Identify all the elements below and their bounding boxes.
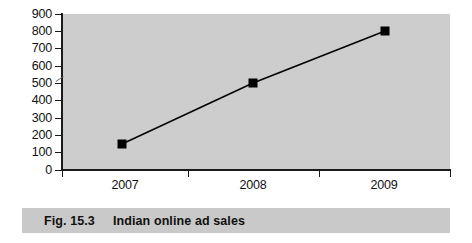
y-axis-label: 700 [6,42,52,54]
y-axis-tick [55,66,62,67]
y-axis-label: 600 [6,60,52,72]
y-axis-label: 800 [6,25,52,37]
caption-title: Indian online ad sales [113,214,245,228]
y-axis-tick [55,170,62,171]
y-axis-label: 400 [6,94,52,106]
y-axis-tick [55,152,62,153]
figure-container: 900 800 700 600 500 400 300 200 100 0 20… [0,0,472,243]
x-axis-label-2009: 2009 [344,178,424,192]
figure-caption: Fig. 15.3 Indian online ad sales [22,208,450,233]
x-axis-tick [188,170,189,177]
x-axis-line [61,169,451,171]
x-axis-label-2008: 2008 [213,178,293,192]
line-chart: 900 800 700 600 500 400 300 200 100 0 20… [0,0,472,200]
y-axis-tick [55,135,62,136]
data-point-marker [381,27,390,36]
data-point-marker [118,140,127,149]
y-axis-label: 300 [6,112,52,124]
y-axis-tick [55,14,62,15]
plot-area [62,14,450,170]
x-axis-tick [319,170,320,177]
y-axis-label: 0 [6,164,52,176]
y-axis-tick [55,31,62,32]
y-axis-label: 900 [6,8,52,20]
y-axis-label: 500 [6,77,52,89]
data-point-marker [249,79,258,88]
plot-svg [62,14,450,170]
x-axis-tick [62,170,63,177]
y-axis-line [61,13,63,171]
y-axis-label: 200 [6,129,52,141]
y-axis-tick [55,48,62,49]
x-axis-tick [450,170,451,177]
caption-figure-number: Fig. 15.3 [44,214,95,228]
y-axis-tick [55,118,62,119]
y-axis-label: 100 [6,146,52,158]
y-axis-tick [55,100,62,101]
x-axis-label-2007: 2007 [85,178,165,192]
